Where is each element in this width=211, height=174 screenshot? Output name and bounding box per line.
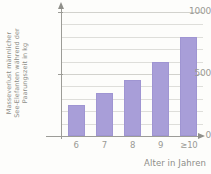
x-tick-label: 8 [118, 140, 146, 150]
bar-7 [96, 93, 113, 136]
y-tick-label: 500 [155, 68, 211, 78]
y-tick-mark [58, 136, 63, 137]
y-axis-title-line-2: See-Elefanten während der [13, 28, 21, 118]
bar-8 [124, 80, 141, 136]
gridline [62, 24, 203, 25]
x-tick-label: 7 [90, 140, 118, 150]
x-axis-title: Alter in Jahren [144, 158, 206, 168]
y-axis-title: Masseverlust männlicher See-Elefanten wä… [0, 0, 34, 145]
bar-chart-figure: Masseverlust männlicher See-Elefanten wä… [0, 0, 211, 174]
bar-≥10 [180, 37, 197, 136]
x-tick-label: 6 [62, 140, 90, 150]
x-tick-label: 9 [147, 140, 175, 150]
y-tick-label: 0 [155, 130, 211, 140]
arrow-up-icon [58, 2, 64, 9]
y-axis-title-line-1: Masseverlust männlicher [5, 28, 13, 118]
x-tick-label: ≥10 [175, 140, 203, 150]
y-axis-title-line-3: Paarungszeit in kg [21, 28, 29, 118]
y-tick-label: 1000 [155, 6, 211, 16]
y-tick-mark [58, 74, 63, 75]
bar-6 [68, 105, 85, 136]
y-tick-mark [58, 12, 63, 13]
